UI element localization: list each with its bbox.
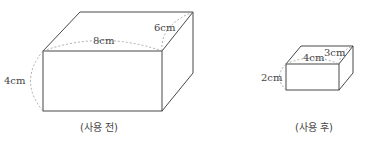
label-height-before: 4cm xyxy=(4,75,26,86)
label-length-after: 4cm xyxy=(303,52,325,63)
label-depth-after: 3cm xyxy=(324,47,346,58)
diagram-canvas: 8cm 6cm 4cm (사용 전) 4cm 3cm 2cm (사용 후) xyxy=(0,0,370,146)
label-height-after: 2cm xyxy=(261,72,283,83)
box-before-front-face xyxy=(43,51,162,111)
label-depth-before: 6cm xyxy=(154,22,176,33)
box-after-front-face xyxy=(286,64,339,90)
caption-before: (사용 전) xyxy=(80,122,118,133)
arc-height-before xyxy=(31,51,44,111)
label-length-before: 8cm xyxy=(93,35,115,46)
caption-after: (사용 후) xyxy=(295,122,333,133)
